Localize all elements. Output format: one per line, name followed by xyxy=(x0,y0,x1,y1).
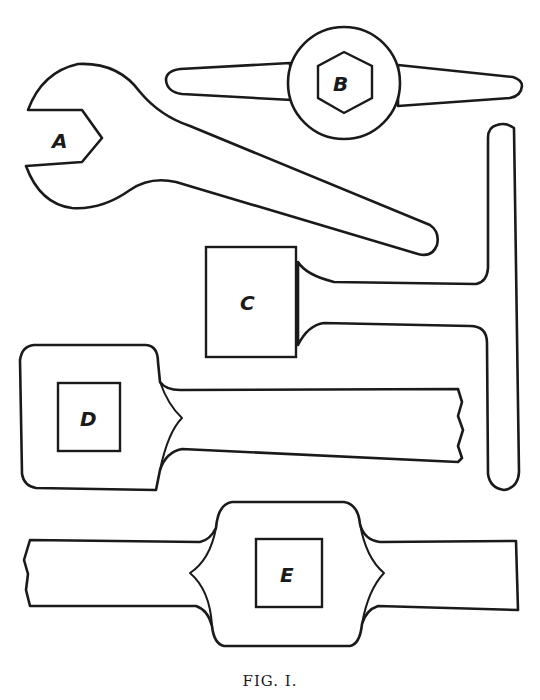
tool-d-label: D xyxy=(80,407,97,431)
tool-e-label: E xyxy=(280,563,294,587)
tool-e: E xyxy=(24,502,518,646)
tool-figure: B A C D E xyxy=(0,0,540,700)
tool-a-label: A xyxy=(50,129,67,153)
figure-caption: FIG. I. xyxy=(0,672,540,690)
tool-c-label: C xyxy=(240,291,255,315)
tool-d: D xyxy=(20,345,463,490)
tool-b: B xyxy=(166,27,522,139)
tool-b-label: B xyxy=(333,72,348,96)
